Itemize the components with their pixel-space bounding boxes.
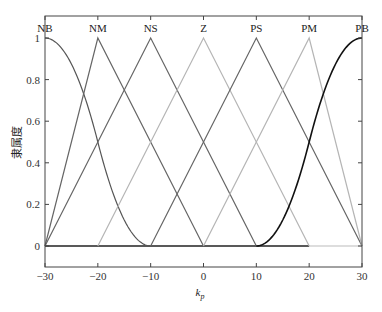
y-tick-label: 0: [35, 240, 41, 252]
x-tick-label: −30: [36, 270, 54, 282]
x-axis-title-sub: p: [199, 292, 204, 301]
x-tick-label: 10: [251, 270, 263, 282]
set-label-ns: NS: [144, 22, 158, 34]
y-tick-label: 0.6: [26, 115, 40, 127]
set-label-ps: PS: [250, 22, 262, 34]
plot-lines: [45, 38, 362, 246]
set-label-z: Z: [200, 22, 207, 34]
x-tick-label: 20: [304, 270, 316, 282]
series-nm: [45, 38, 204, 246]
y-axis-title: 隶属度: [10, 126, 23, 159]
y-tick-label: 0.8: [26, 74, 40, 86]
set-label-pm: PM: [301, 22, 317, 34]
set-label-nb: NB: [37, 22, 52, 34]
x-tick-label: 30: [357, 270, 369, 282]
fuzzy-set-labels: NBNMNSZPSPMPB: [37, 22, 368, 34]
x-axis-title: kp: [196, 286, 205, 301]
series-pm: [204, 38, 363, 246]
set-label-nm: NM: [89, 22, 107, 34]
x-tick-label: 0: [201, 270, 207, 282]
x-tick-label: −10: [142, 270, 160, 282]
membership-function-chart: −30−20−10010203000.20.40.60.81 NBNMNSZPS…: [0, 0, 382, 312]
x-tick-label: −20: [89, 270, 107, 282]
axis-ticks: −30−20−10010203000.20.40.60.81: [26, 16, 368, 282]
y-tick-label: 0.2: [26, 198, 40, 210]
set-label-pb: PB: [355, 22, 368, 34]
y-tick-label: 0.4: [26, 157, 40, 169]
